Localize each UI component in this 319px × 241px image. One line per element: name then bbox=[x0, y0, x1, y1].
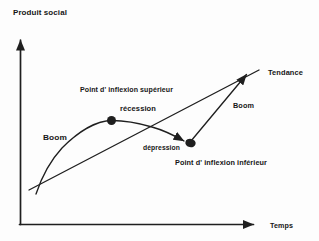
boom-left-label: Boom bbox=[43, 133, 67, 142]
business-cycle-diagram: Produit social Point d' inflexion supéri… bbox=[0, 0, 319, 241]
diagram-svg: Produit social Point d' inflexion supéri… bbox=[0, 0, 319, 241]
depression-label: dépression bbox=[143, 143, 180, 152]
x-axis-label: Temps bbox=[270, 221, 293, 230]
upper-inflection-dot bbox=[107, 116, 116, 125]
boom-right-label: Boom bbox=[233, 101, 254, 110]
y-axis-title: Produit social bbox=[13, 8, 67, 17]
lower-inflection-label: Point d' inflexion inférieur bbox=[175, 158, 267, 167]
lower-inflection-dot bbox=[185, 138, 197, 148]
upper-inflection-label: Point d' inflexion supérieur bbox=[80, 85, 173, 94]
cycle-curve bbox=[36, 121, 184, 195]
trend-label: Tendance bbox=[268, 68, 303, 77]
recession-label: récession bbox=[120, 104, 156, 113]
